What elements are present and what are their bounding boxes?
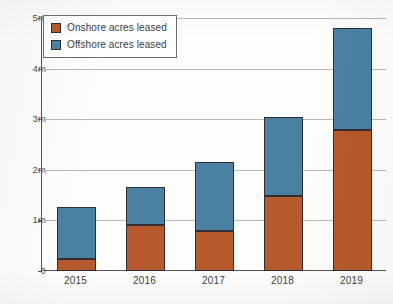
bar-segment-onshore[interactable]	[195, 231, 233, 271]
bar-segment-offshore[interactable]	[126, 187, 164, 225]
x-axis-tick-label: 2017	[184, 276, 244, 286]
x-axis-tick-label: 2019	[322, 276, 382, 286]
bar-group[interactable]	[333, 18, 371, 271]
legend-item-onshore: Onshore acres leased	[51, 21, 167, 35]
legend-swatch-offshore	[51, 40, 61, 50]
bar-group[interactable]	[195, 18, 233, 271]
bar-segment-onshore[interactable]	[264, 196, 302, 271]
bar-segment-offshore[interactable]	[264, 117, 302, 196]
bar-group[interactable]	[264, 18, 302, 271]
x-axis-tick-label: 2016	[115, 276, 175, 286]
chart-legend: Onshore acres leased Offshore acres leas…	[43, 15, 177, 58]
bar-segment-onshore[interactable]	[333, 130, 371, 271]
bar-segment-onshore[interactable]	[126, 225, 164, 271]
legend-swatch-onshore	[51, 23, 61, 33]
legend-label-offshore: Offshore acres leased	[67, 40, 167, 50]
y-axis-tick-mark	[38, 271, 43, 272]
stacked-bar-chart: 5m 4m 3m 2m 1m 0 20152016201720182019 On…	[0, 0, 393, 304]
legend-item-offshore: Offshore acres leased	[51, 38, 167, 52]
bar-segment-onshore[interactable]	[57, 259, 95, 271]
bar-segment-offshore[interactable]	[195, 162, 233, 231]
x-axis-tick-label: 2018	[253, 276, 313, 286]
legend-label-onshore: Onshore acres leased	[67, 23, 167, 33]
x-axis-tick-label: 2015	[46, 276, 106, 286]
bar-segment-offshore[interactable]	[333, 28, 371, 130]
bar-segment-offshore[interactable]	[57, 207, 95, 259]
